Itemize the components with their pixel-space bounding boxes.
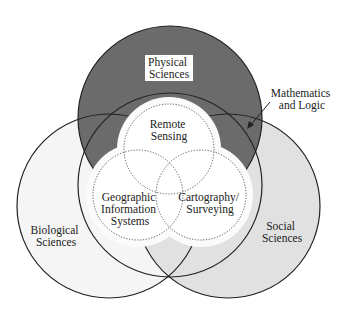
remote-sensing-label: Remote Sensing: [150, 118, 189, 143]
cartography-label: Cartography/ Surveying: [178, 191, 242, 216]
social-sciences-label: Social Sciences: [262, 220, 303, 244]
biological-sciences-label: Biological Sciences: [31, 224, 82, 248]
physical-sciences-label: Physical Sciences: [148, 56, 190, 80]
venn-diagram: Physical Sciences Biological Sciences So…: [0, 0, 346, 318]
mathematics-logic-label: Mathematics and Logic: [271, 87, 333, 112]
